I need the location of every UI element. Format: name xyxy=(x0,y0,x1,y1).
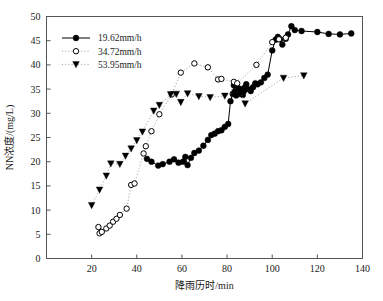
data-point xyxy=(279,42,285,48)
data-point xyxy=(219,76,224,81)
data-point xyxy=(178,70,183,75)
legend-item-2[interactable]: 34.72mm/h xyxy=(62,47,142,57)
y-tick-label: 20 xyxy=(31,156,41,167)
data-point xyxy=(228,98,234,104)
data-point xyxy=(149,159,155,165)
y-tick-label: 15 xyxy=(31,180,41,191)
data-point xyxy=(178,99,185,105)
data-point xyxy=(133,138,140,144)
data-point xyxy=(235,81,240,86)
data-point xyxy=(124,206,129,211)
data-point xyxy=(185,162,191,168)
y-tick-label: 35 xyxy=(31,84,41,95)
data-point xyxy=(222,93,229,99)
data-point xyxy=(157,112,162,117)
data-point xyxy=(196,148,202,154)
data-point xyxy=(143,144,148,149)
x-tick-label: 140 xyxy=(355,263,370,274)
data-point xyxy=(207,95,214,101)
y-axis: 05101520253035404550 xyxy=(31,11,51,264)
data-point xyxy=(225,121,231,127)
x-tick-label: 40 xyxy=(132,263,142,274)
y-tick-label: 50 xyxy=(31,11,41,22)
data-point xyxy=(348,31,354,37)
data-point xyxy=(283,35,288,40)
data-point xyxy=(88,202,95,208)
data-point xyxy=(270,39,275,44)
data-point xyxy=(292,27,298,33)
data-point xyxy=(326,31,332,37)
data-point xyxy=(276,37,281,42)
legend-marker xyxy=(73,35,79,41)
chart-container: 0510152025303540455020406080100120140降雨历… xyxy=(0,0,383,301)
legend-item-3[interactable]: 53.95mm/h xyxy=(62,60,142,70)
data-point xyxy=(196,94,203,100)
y-tick-label: 30 xyxy=(31,108,41,119)
legend-item-1[interactable]: 19.62mm/h xyxy=(62,33,142,43)
data-point xyxy=(96,224,101,229)
data-point xyxy=(254,62,259,67)
data-point xyxy=(132,181,137,186)
data-point xyxy=(96,187,103,193)
x-tick-label: 120 xyxy=(310,263,325,274)
data-point xyxy=(149,129,154,134)
data-point xyxy=(156,102,163,108)
data-point xyxy=(139,129,146,135)
y-axis-title: NN浓度/(mg/L) xyxy=(3,105,16,171)
data-point xyxy=(280,75,287,81)
y-tick-label: 45 xyxy=(31,35,41,46)
data-point xyxy=(299,28,305,34)
data-point xyxy=(192,61,197,66)
data-point xyxy=(337,32,343,38)
data-point xyxy=(269,47,275,53)
data-point xyxy=(150,108,157,114)
legend-label: 53.95mm/h xyxy=(98,60,142,70)
data-point xyxy=(117,161,124,167)
y-tick-label: 40 xyxy=(31,59,41,70)
y-tick-label: 5 xyxy=(36,229,41,240)
x-axis-title: 降雨历时/min xyxy=(175,279,233,291)
data-point xyxy=(314,29,320,35)
x-axis: 20406080100120140 xyxy=(47,255,371,274)
y-tick-label: 0 xyxy=(36,253,41,264)
x-tick-label: 80 xyxy=(222,263,232,274)
data-point xyxy=(200,143,206,149)
series-53-95mm-h xyxy=(88,73,307,209)
legend-label: 19.62mm/h xyxy=(98,33,142,43)
legend: 19.62mm/h34.72mm/h53.95mm/h xyxy=(62,33,142,69)
plot-frame xyxy=(47,17,363,259)
data-point xyxy=(103,173,110,179)
y-tick-label: 25 xyxy=(31,132,41,143)
x-tick-label: 60 xyxy=(177,263,187,274)
data-point xyxy=(117,212,122,217)
data-point xyxy=(205,65,210,70)
x-tick-label: 100 xyxy=(265,263,280,274)
series-line xyxy=(147,26,351,165)
legend-marker xyxy=(73,49,78,54)
data-point xyxy=(141,151,146,156)
scatter-chart: 0510152025303540455020406080100120140降雨历… xyxy=(0,0,383,301)
x-tick-label: 20 xyxy=(87,263,97,274)
data-point xyxy=(122,153,129,159)
legend-label: 34.72mm/h xyxy=(98,47,142,57)
y-tick-label: 10 xyxy=(31,205,41,216)
data-point xyxy=(182,154,188,160)
data-point xyxy=(160,161,166,167)
data-point xyxy=(265,72,271,78)
data-point xyxy=(242,101,249,107)
